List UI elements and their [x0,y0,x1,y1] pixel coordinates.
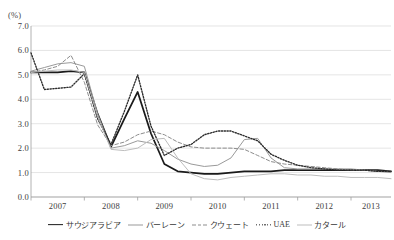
legend-label: UAE [274,220,290,229]
x-tick-label: 2011 [262,201,280,211]
chart-legend: サウジアラビアバーレーンクウェートUAEカタール [0,219,394,230]
line-chart: (%) 7.06.05.04.03.02.01.00.0 20072008200… [0,0,394,240]
y-tick-label: 7.0 [3,21,29,31]
legend-swatch [48,221,63,228]
legend-swatch [297,221,312,228]
legend-item[interactable]: バーレーン [128,219,185,230]
data-series [31,53,391,180]
y-tick-label: 5.0 [3,70,29,80]
y-tick-label: 4.0 [3,94,29,104]
series-line [31,53,391,171]
y-tick-label: 0.0 [3,192,29,202]
x-tick-label: 2009 [155,201,173,211]
x-tick-label: 2010 [209,201,227,211]
legend-item[interactable]: カタール [297,219,346,230]
y-tick-label: 6.0 [3,45,29,55]
legend-item[interactable]: クウェート [192,219,249,230]
legend-label: カタール [314,219,346,230]
legend-item[interactable]: サウジアラビア [48,219,121,230]
legend-label: サウジアラビア [66,219,121,230]
legend-swatch [128,221,143,228]
axis-lines [31,26,391,197]
x-tick-label: 2013 [362,201,380,211]
legend-label: バーレーン [146,219,186,230]
legend-swatch [192,221,207,228]
x-axis-tick-marks [31,197,351,201]
y-tick-label: 2.0 [3,143,29,153]
series-line [31,70,391,180]
legend-item[interactable]: UAE [256,220,290,229]
gridlines [31,26,391,197]
legend-label: クウェート [210,219,250,230]
legend-swatch [256,221,271,228]
y-axis-tick-labels: 7.06.05.04.03.02.01.00.0 [0,0,29,240]
x-tick-label: 2007 [49,201,67,211]
series-line [31,71,391,174]
series-line [31,63,391,173]
y-tick-label: 1.0 [3,168,29,178]
y-tick-label: 3.0 [3,119,29,129]
x-tick-label: 2012 [315,201,333,211]
x-tick-label: 2008 [102,201,120,211]
